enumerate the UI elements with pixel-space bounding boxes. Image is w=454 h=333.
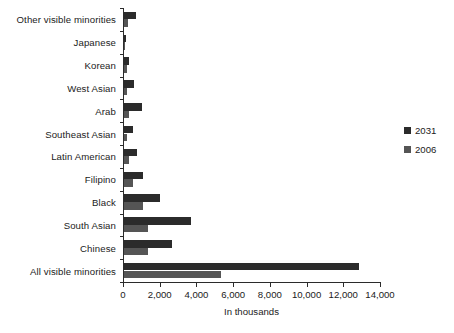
y-axis-tick xyxy=(120,31,124,32)
y-axis-tick xyxy=(120,122,124,123)
x-axis-tick-label: 2,000 xyxy=(148,289,172,300)
bar-2006-0 xyxy=(124,19,128,27)
x-axis-tick xyxy=(160,282,161,287)
bar-group xyxy=(124,8,381,31)
bar-2006-9 xyxy=(124,225,148,233)
x-axis-tick-label: 0 xyxy=(120,289,125,300)
bar-2031-8 xyxy=(124,194,160,202)
legend-item-2031[interactable]: 2031 xyxy=(404,126,436,136)
x-axis-tick xyxy=(380,282,381,287)
y-axis-tick xyxy=(120,77,124,78)
y-axis-tick xyxy=(120,236,124,237)
category-axis: Other visible minoritiesJapaneseKoreanWe… xyxy=(0,0,120,282)
bar-2006-1 xyxy=(124,42,125,50)
bar-2006-4 xyxy=(124,111,129,119)
y-axis-tick xyxy=(120,191,124,192)
x-axis-tick-label: 8,000 xyxy=(258,289,282,300)
category-label: South Asian xyxy=(64,219,116,230)
category-label: Southeast Asian xyxy=(45,128,116,139)
category-label: Black xyxy=(92,197,116,208)
category-label: Korean xyxy=(84,60,116,71)
bar-2006-3 xyxy=(124,88,127,96)
legend-label: 2031 xyxy=(415,126,436,136)
category-label: West Asian xyxy=(67,82,116,93)
y-axis-tick xyxy=(120,168,124,169)
bar-2031-4 xyxy=(124,103,142,111)
category-label: Japanese xyxy=(74,37,116,48)
x-axis-tick-label: 10,000 xyxy=(292,289,321,300)
bar-2031-9 xyxy=(124,217,191,225)
x-axis-tick-label: 6,000 xyxy=(221,289,245,300)
x-axis-tick xyxy=(343,282,344,287)
bar-2031-11 xyxy=(124,263,359,271)
bar-group xyxy=(124,214,381,237)
bar-2031-5 xyxy=(124,126,133,134)
bar-2031-3 xyxy=(124,80,134,88)
category-label: Arab xyxy=(95,105,116,116)
bar-2006-6 xyxy=(124,156,129,164)
x-axis-tick xyxy=(233,282,234,287)
category-label: Latin American xyxy=(51,151,116,162)
x-axis-tick xyxy=(307,282,308,287)
bar-2031-10 xyxy=(124,240,172,248)
bar-2006-5 xyxy=(124,134,127,142)
bar-group xyxy=(124,191,381,214)
x-axis-tick-label: 14,000 xyxy=(365,289,394,300)
x-axis-tick-label: 12,000 xyxy=(329,289,358,300)
bar-group xyxy=(124,31,381,54)
y-axis-tick xyxy=(120,259,124,260)
y-axis-tick xyxy=(120,145,124,146)
bar-chart: Other visible minoritiesJapaneseKoreanWe… xyxy=(0,0,454,333)
bar-2006-10 xyxy=(124,248,148,256)
x-axis-title: In thousands xyxy=(123,306,380,317)
legend-swatch-icon xyxy=(404,127,411,134)
y-axis-tick xyxy=(120,54,124,55)
bar-group xyxy=(124,236,381,259)
bar-2031-1 xyxy=(124,35,126,43)
bar-2006-8 xyxy=(124,202,143,210)
category-label: Filipino xyxy=(85,174,116,185)
y-axis-tick xyxy=(120,8,124,9)
bar-2006-2 xyxy=(124,65,127,73)
bar-2031-7 xyxy=(124,172,143,180)
x-axis-tick-label: 4,000 xyxy=(184,289,208,300)
bar-group xyxy=(124,54,381,77)
bar-2031-0 xyxy=(124,12,136,20)
category-label: Other visible minorities xyxy=(17,14,116,25)
bar-2006-7 xyxy=(124,179,133,187)
category-label: All visible minorities xyxy=(30,265,116,276)
bar-group xyxy=(124,99,381,122)
bar-group xyxy=(124,259,381,282)
bar-group xyxy=(124,168,381,191)
y-axis-tick xyxy=(120,214,124,215)
chart-legend: 20312006 xyxy=(404,126,436,163)
legend-swatch-icon xyxy=(404,146,411,153)
plot-area xyxy=(123,8,380,282)
x-axis-line xyxy=(123,282,380,283)
x-axis-tick xyxy=(123,282,124,287)
bar-2031-2 xyxy=(124,57,129,65)
bar-group xyxy=(124,145,381,168)
bar-2006-11 xyxy=(124,271,221,279)
bar-group xyxy=(124,77,381,100)
category-label: Chinese xyxy=(80,242,116,253)
bar-group xyxy=(124,122,381,145)
legend-item-2006[interactable]: 2006 xyxy=(404,145,436,155)
legend-label: 2006 xyxy=(415,145,436,155)
x-axis-tick xyxy=(270,282,271,287)
bar-2031-6 xyxy=(124,149,137,157)
y-axis-tick xyxy=(120,99,124,100)
x-axis-tick xyxy=(196,282,197,287)
